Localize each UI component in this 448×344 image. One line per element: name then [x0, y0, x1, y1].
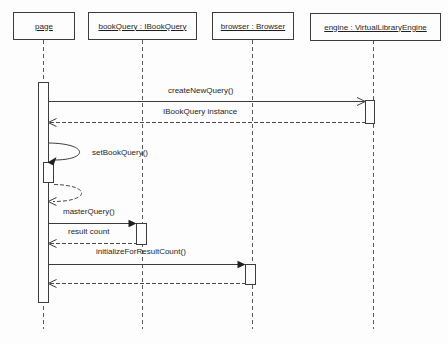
activation-bookquery [137, 224, 147, 245]
lifeline-head-page: page [13, 12, 75, 40]
open-arrowhead-icon [48, 198, 56, 206]
message-label-masterquery: masterQuery() [63, 207, 115, 216]
message-label-result-count: result count [68, 227, 109, 236]
lifeline-head-engine: engine : VirtualLibraryEngine [310, 13, 441, 41]
lifeline-label-engine: engine : VirtualLibraryEngine [324, 23, 427, 32]
activation-page-main [39, 83, 49, 303]
lifeline-head-browser: browser : Browser [212, 12, 294, 40]
activation-engine [366, 101, 375, 124]
message-label-createnewquery: createNewQuery() [168, 86, 233, 95]
lifeline-head-bookquery: bookQuery : IBookQuery [88, 12, 197, 40]
sequence-diagram: page bookQuery : IBookQuery browser : Br… [0, 0, 448, 344]
activation-page-nested [44, 163, 54, 183]
filled-arrowhead-icon [129, 220, 137, 227]
filled-arrowhead-icon [238, 261, 246, 268]
activation-browser [246, 265, 256, 285]
diagram-canvas [0, 0, 448, 344]
message-arc-self-return [53, 185, 82, 202]
lifeline-label-page: page [35, 22, 53, 31]
message-label-ibookquery-instance: IBookQuery instance [163, 107, 237, 116]
message-label-setbookquery: setBookQuery() [92, 148, 148, 157]
message-label-initializeforresultcount: initializeForResultCount() [96, 247, 186, 256]
message-arc-setbookquery [49, 143, 80, 160]
lifeline-label-browser: browser : Browser [221, 22, 285, 31]
lifeline-label-bookquery: bookQuery : IBookQuery [98, 22, 186, 31]
